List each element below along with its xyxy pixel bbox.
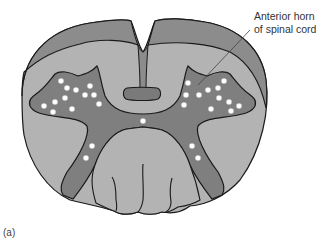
anterior-horn-label: Anterior horn of spinal cord: [254, 10, 316, 36]
anterior-horn-label-line1: Anterior horn: [254, 10, 316, 23]
anterior-horn-label-line2: of spinal cord: [254, 23, 316, 36]
central-bar: [123, 87, 160, 100]
panel-label: (a): [3, 226, 15, 239]
neuron-center: [140, 118, 146, 124]
